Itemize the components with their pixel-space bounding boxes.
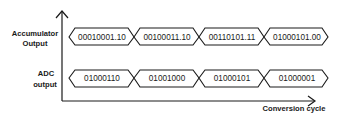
accumulator-value-3: 00110101.11 [209, 33, 256, 42]
x-axis-label: Conversion cycle [263, 104, 326, 113]
adc-value-4: 01000001 [279, 74, 316, 83]
accumulator-value-1: 00010001.10 [78, 33, 126, 42]
adc-label-line1: ADC [38, 69, 55, 78]
accumulator-value-2: 00100011.10 [143, 33, 191, 42]
accumulator-label-line1: Accumulator [12, 29, 58, 38]
adc-value-1: 01000110 [84, 74, 120, 83]
timing-diagram: Accumulator Output ADC output 00010001.1… [0, 0, 350, 120]
accumulator-label-line2: Output [23, 39, 48, 48]
axes [56, 11, 315, 106]
adc-label-line2: output [33, 80, 57, 89]
adc-value-3: 01000101 [214, 74, 251, 83]
adc-value-2: 01001000 [149, 74, 186, 83]
accumulator-value-4: 01000101.00 [273, 33, 321, 42]
